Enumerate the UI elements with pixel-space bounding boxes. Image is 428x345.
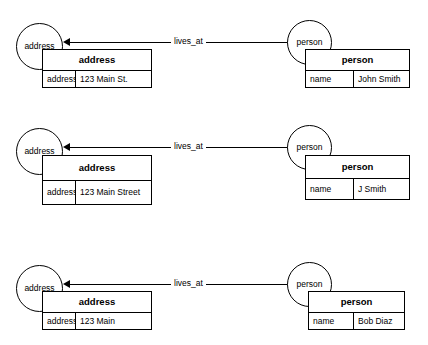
person-attribute-table: person name John Smith bbox=[305, 49, 410, 88]
address-table-header-text: address bbox=[79, 55, 115, 65]
relationship-instance-1: address lives_at address address 123 Mai… bbox=[0, 0, 428, 120]
person-table-header: person bbox=[309, 292, 404, 313]
person-table-header: person bbox=[306, 156, 409, 179]
address-table-value-text: 123 Main St. bbox=[80, 75, 128, 84]
relationship-instance-3: address lives_at address address 123 Mai… bbox=[0, 262, 428, 345]
address-table-header-text: address bbox=[79, 163, 115, 173]
person-table-value-cell: J Smith bbox=[354, 179, 409, 199]
person-table-value-text: Bob Diaz bbox=[358, 317, 393, 326]
address-table-key-cell: address bbox=[43, 181, 76, 204]
person-table-row: name J Smith bbox=[306, 179, 409, 199]
address-table-row: address 123 Main St. bbox=[43, 71, 151, 87]
address-table-key-text: address bbox=[47, 75, 76, 84]
person-table-value-cell: Bob Diaz bbox=[354, 313, 404, 329]
person-table-key-cell: name bbox=[306, 179, 354, 199]
person-table-key-cell: name bbox=[306, 71, 354, 87]
address-table-row: address 123 Main Street bbox=[43, 181, 151, 204]
address-table-key-cell: address bbox=[43, 71, 76, 87]
address-table-value-text: 123 Main bbox=[80, 317, 115, 326]
person-table-key-cell: name bbox=[309, 313, 354, 329]
person-table-header: person bbox=[306, 50, 409, 71]
address-attribute-table: address address 123 Main St. bbox=[42, 49, 152, 88]
address-table-value-cell: 123 Main bbox=[76, 313, 151, 329]
person-table-key-text: name bbox=[313, 317, 334, 326]
person-table-row: name Bob Diaz bbox=[309, 313, 404, 329]
edge-lives-at-label: lives_at bbox=[171, 142, 206, 151]
edge-arrowhead-icon bbox=[63, 143, 70, 151]
person-table-header-text: person bbox=[342, 55, 374, 65]
address-table-value-cell: 123 Main Street bbox=[76, 181, 151, 204]
edge-lives-at-label: lives_at bbox=[171, 279, 206, 288]
relationship-instance-2: address lives_at address address 123 Mai… bbox=[0, 125, 428, 235]
person-table-value-text: J Smith bbox=[358, 185, 386, 194]
node-person-label: person bbox=[297, 143, 323, 152]
person-table-row: name John Smith bbox=[306, 71, 409, 87]
node-person-label: person bbox=[297, 38, 323, 47]
diagram-canvas: address lives_at address address 123 Mai… bbox=[0, 0, 428, 345]
person-attribute-table: person name Bob Diaz bbox=[308, 291, 405, 330]
address-table-key-text: address bbox=[47, 188, 76, 197]
address-table-header: address bbox=[43, 292, 151, 313]
address-table-value-text: 123 Main Street bbox=[80, 188, 140, 197]
address-table-key-cell: address bbox=[43, 313, 76, 329]
address-table-header-text: address bbox=[79, 297, 115, 307]
edge-lives-at-label: lives_at bbox=[171, 37, 206, 46]
edge-arrowhead-icon bbox=[63, 280, 70, 288]
address-attribute-table: address address 123 Main Street bbox=[42, 155, 152, 205]
address-table-row: address 123 Main bbox=[43, 313, 151, 329]
person-table-value-text: John Smith bbox=[358, 75, 401, 84]
address-table-header: address bbox=[43, 156, 151, 181]
person-table-header-text: person bbox=[341, 297, 373, 307]
address-table-header: address bbox=[43, 50, 151, 71]
person-table-value-cell: John Smith bbox=[354, 71, 409, 87]
node-person-label: person bbox=[297, 280, 323, 289]
person-table-header-text: person bbox=[342, 162, 374, 172]
person-table-key-text: name bbox=[310, 185, 331, 194]
address-table-key-text: address bbox=[47, 317, 76, 326]
edge-arrowhead-icon bbox=[63, 38, 70, 46]
person-table-key-text: name bbox=[310, 75, 331, 84]
person-attribute-table: person name J Smith bbox=[305, 155, 410, 200]
address-attribute-table: address address 123 Main bbox=[42, 291, 152, 330]
address-table-value-cell: 123 Main St. bbox=[76, 71, 151, 87]
